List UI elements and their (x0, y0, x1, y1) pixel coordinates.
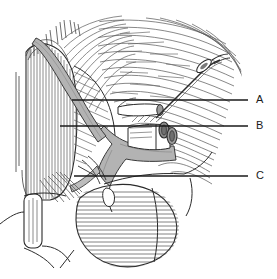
anatomy-illustration: A B C (0, 0, 277, 279)
label-b: B (256, 119, 263, 131)
rounded-bone-block-lower-left (24, 194, 42, 248)
anatomical-figure: A B C (0, 0, 277, 279)
label-a: A (256, 93, 264, 105)
oval-leaf-marking (103, 188, 115, 207)
label-c: C (256, 169, 264, 181)
